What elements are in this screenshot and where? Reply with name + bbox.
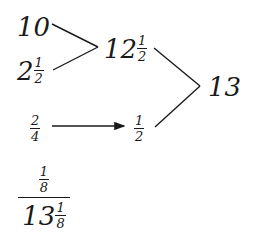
final-denominator: 13 1 8: [22, 198, 65, 230]
fraction: 1 2: [134, 114, 144, 143]
numerator: 2: [30, 114, 40, 129]
numerator: 1: [39, 165, 49, 180]
fraction: 1 8: [39, 165, 49, 194]
numerator: 1: [55, 201, 65, 216]
node-two-quarters: 2 4: [30, 114, 40, 143]
edge-12half-to-13: [154, 48, 200, 86]
final-numerator: 1 8: [18, 165, 70, 198]
node-12-and-half: 12 1 2: [104, 34, 147, 63]
edge-2half-to-12half: [53, 47, 98, 70]
denominator: 8: [40, 180, 48, 194]
denominator: 4: [31, 129, 39, 143]
node-13: 13: [208, 74, 241, 100]
numerator: 1: [134, 114, 144, 129]
node-10-value: 10: [17, 12, 50, 42]
whole-part: 2: [17, 58, 34, 84]
node-one-half: 1 2: [134, 114, 144, 143]
fraction: 2 4: [30, 114, 40, 143]
whole-part: 12: [104, 36, 137, 62]
fraction-part: 1 8: [55, 201, 65, 230]
numerator: 1: [34, 56, 44, 71]
denominator: 8: [56, 216, 64, 230]
fraction-part: 1 2: [137, 34, 147, 63]
node-10: 10: [17, 14, 50, 40]
whole-part: 13: [22, 203, 55, 229]
edge-10-to-12half: [52, 24, 98, 47]
denominator: 2: [35, 71, 43, 85]
node-2-and-half: 2 1 2: [17, 56, 44, 85]
numerator: 1: [137, 34, 147, 49]
node-13-value: 13: [208, 72, 241, 102]
fraction-part: 1 2: [34, 56, 44, 85]
final-fraction: 1 8 13 1 8: [18, 165, 70, 230]
denominator: 2: [135, 129, 143, 143]
denominator: 2: [138, 49, 146, 63]
edge-half-to-13: [155, 86, 200, 127]
